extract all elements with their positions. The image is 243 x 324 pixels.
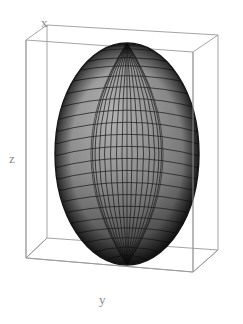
ellipsoid-surface — [55, 43, 199, 265]
axis-label-y: y — [99, 293, 106, 306]
plot-canvas: x z y — [0, 0, 243, 324]
bottom-shading — [55, 43, 199, 265]
axis-label-x: x — [41, 16, 48, 29]
axis-label-z: z — [9, 152, 15, 165]
ellipsoid-3d-plot — [0, 0, 243, 324]
